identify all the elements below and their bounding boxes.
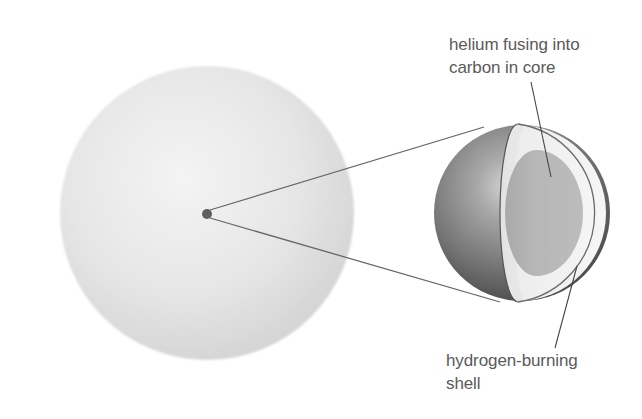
label-helium-core: helium fusing into carbon in core <box>449 33 580 79</box>
label-hydrogen-shell: hydrogen-burning shell <box>446 349 578 395</box>
label-shell-line2: shell <box>446 372 578 395</box>
label-shell-line1: hydrogen-burning <box>446 349 578 372</box>
label-core-line2: carbon in core <box>449 56 580 79</box>
label-core-line1: helium fusing into <box>449 33 580 56</box>
core-cutaway-sphere <box>434 124 610 302</box>
